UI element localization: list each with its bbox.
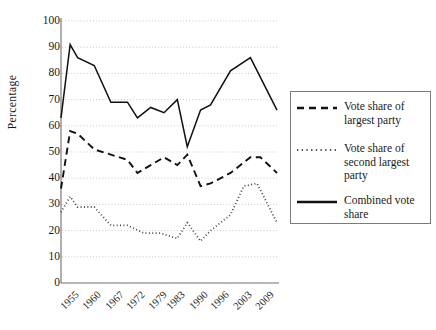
legend-key-dotted-icon xyxy=(296,142,342,156)
plot-area: Percentage 0102030405060708090100 195519… xyxy=(0,0,286,330)
axis-lines xyxy=(61,18,279,283)
series-combined-vote-share xyxy=(61,45,277,147)
legend-label-2: Combined vote share xyxy=(342,194,432,221)
series-largest-party xyxy=(61,131,277,189)
chart-figure: Percentage 0102030405060708090100 195519… xyxy=(0,0,436,330)
legend-label-0: Vote share of largest party xyxy=(342,100,432,127)
data-series-layer xyxy=(61,45,277,242)
chart-canvas xyxy=(0,0,286,330)
legend-label-1: Vote share of second largest party xyxy=(342,142,432,183)
legend-item-2: Combined vote share xyxy=(291,194,432,221)
chart-legend: Vote share of largest partyVote share of… xyxy=(290,91,431,224)
series-second-largest-party xyxy=(61,183,277,241)
legend-key-dashed-icon xyxy=(296,100,342,114)
legend-item-1: Vote share of second largest party xyxy=(291,142,432,183)
legend-item-0: Vote share of largest party xyxy=(291,100,432,127)
gridlines xyxy=(62,21,277,257)
legend-key-solid-icon xyxy=(296,194,342,208)
